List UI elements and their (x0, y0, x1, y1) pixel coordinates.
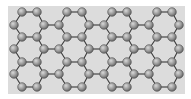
atom-node (123, 33, 132, 42)
atom-node (78, 83, 87, 92)
atom-node (153, 33, 162, 42)
atom-node (33, 58, 42, 67)
atom-node (145, 21, 154, 30)
atom-node (55, 21, 64, 30)
atom-node (123, 83, 132, 92)
atom-node (175, 21, 184, 30)
lattice-background-panel (8, 6, 185, 94)
atom-node (153, 83, 162, 92)
atom-node (130, 45, 139, 54)
atom-node (108, 58, 117, 67)
atom-node (168, 83, 177, 92)
atom-node (168, 33, 177, 42)
atom-node (145, 70, 154, 79)
atom-node (18, 83, 27, 92)
atom-node (85, 45, 94, 54)
atom-node (63, 83, 72, 92)
atom-node (123, 58, 132, 67)
atom-node (10, 70, 19, 79)
atom-node (108, 83, 117, 92)
atom-node (40, 70, 49, 79)
atom-node (85, 70, 94, 79)
atom-node (108, 8, 117, 17)
atom-node (18, 8, 27, 17)
atom-node (33, 33, 42, 42)
atom-node (18, 33, 27, 42)
atom-node (145, 45, 154, 54)
atom-node (63, 8, 72, 17)
atom-node (168, 58, 177, 67)
atom-node (100, 45, 109, 54)
atom-node (130, 21, 139, 30)
atom-node (130, 70, 139, 79)
atom-node (100, 21, 109, 30)
atom-node (153, 8, 162, 17)
atom-node (153, 58, 162, 67)
atom-node (175, 70, 184, 79)
atom-node (10, 45, 19, 54)
atom-node (33, 8, 42, 17)
atom-node (10, 21, 19, 30)
atom-node (63, 33, 72, 42)
atom-node (55, 70, 64, 79)
atom-node (55, 45, 64, 54)
atom-node (175, 45, 184, 54)
atom-node (100, 70, 109, 79)
hexagonal-lattice-diagram (0, 0, 191, 99)
atom-node (78, 33, 87, 42)
atom-node (63, 58, 72, 67)
atom-node (18, 58, 27, 67)
atom-node (108, 33, 117, 42)
atom-node (123, 8, 132, 17)
atom-node (40, 45, 49, 54)
atom-node (40, 21, 49, 30)
atom-node (33, 83, 42, 92)
atom-node (85, 21, 94, 30)
atom-node (168, 8, 177, 17)
atom-node (78, 8, 87, 17)
atom-node (78, 58, 87, 67)
